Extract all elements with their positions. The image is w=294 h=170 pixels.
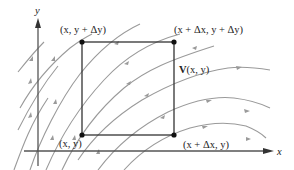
label-bottom-left: (x, y) — [59, 138, 82, 150]
y-axis-label: y — [34, 5, 40, 16]
corner-point-top-right — [171, 39, 176, 44]
flow-line — [30, 24, 140, 170]
label-bottom-right: (x + Δx, y) — [183, 139, 229, 151]
corner-point-bottom-left — [79, 132, 84, 137]
vector-field-diagram: y x (x, y) (x, y + Δy) (x + Δx, y + Δy) … — [0, 0, 294, 170]
flow-arrow-icon — [236, 66, 242, 70]
flow-arrow-icon — [28, 112, 32, 118]
flow-arrow-icon — [51, 56, 55, 61]
flow-line — [46, 34, 180, 170]
field-label: V(x, y) — [179, 64, 210, 76]
flow-line — [14, 98, 48, 170]
flow-arrow-icon — [28, 78, 32, 84]
flow-arrow-icon — [206, 100, 212, 103]
flow-arrow-icon — [202, 126, 208, 129]
label-top-left: (x, y + Δy) — [60, 24, 106, 36]
corner-point-bottom-right — [171, 132, 176, 137]
field-label-args: (x, y) — [187, 64, 210, 76]
flow-arrow-icon — [192, 46, 197, 50]
rectangle — [79, 39, 176, 137]
corner-point-top-left — [79, 39, 84, 44]
flow-line — [18, 42, 44, 72]
flow-arrow-icon — [126, 81, 131, 85]
flow-arrow-icon — [246, 137, 251, 141]
x-axis-label: x — [276, 146, 282, 157]
flow-lines — [14, 24, 270, 170]
flow-line — [98, 98, 270, 170]
flow-arrow-icon — [244, 109, 250, 113]
flow-arrow-icon — [50, 135, 54, 140]
flow-line — [20, 34, 92, 108]
y-axis-arrow-icon — [35, 18, 41, 28]
x-axis-arrow-icon — [263, 148, 274, 154]
label-top-right: (x + Δx, y + Δy) — [174, 24, 244, 36]
flow-arrow-icon — [53, 99, 57, 104]
